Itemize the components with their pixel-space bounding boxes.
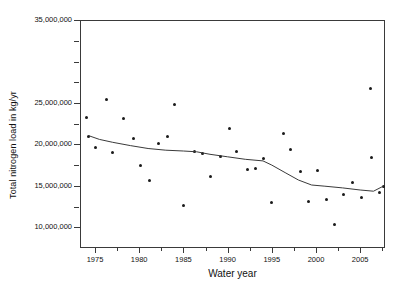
y-axis-tick	[74, 82, 79, 83]
x-axis-tick-label: 1995	[252, 255, 292, 264]
y-axis-tick	[74, 207, 79, 208]
y-axis-tick-label: 10,000,000	[12, 223, 72, 231]
x-axis-tick	[228, 248, 229, 253]
x-axis-tick	[360, 248, 361, 253]
x-axis-tick	[95, 248, 96, 253]
x-axis-tick-label: 2000	[296, 255, 336, 264]
x-axis-minor-tick	[338, 248, 339, 251]
y-axis-tick	[74, 144, 81, 145]
data-point	[193, 150, 196, 153]
x-axis-tick	[183, 248, 184, 253]
y-axis-tick-label: 20,000,000	[12, 140, 72, 148]
y-axis-tick-label: 35,000,000	[12, 16, 72, 24]
data-point	[201, 152, 204, 155]
data-point	[246, 168, 249, 171]
x-axis-tick-label: 1990	[208, 255, 248, 264]
x-axis-tick-label: 1985	[163, 255, 203, 264]
y-axis-tick	[74, 124, 79, 125]
data-point	[282, 132, 285, 135]
data-point	[342, 193, 345, 196]
plot-area	[80, 20, 385, 248]
data-point	[360, 196, 363, 199]
x-axis-minor-tick	[250, 248, 251, 251]
y-axis-tick	[74, 103, 81, 104]
y-axis-tick	[74, 227, 81, 228]
x-axis-tick-label: 1980	[119, 255, 159, 264]
data-point	[299, 170, 302, 173]
data-point	[228, 127, 231, 130]
x-axis-minor-tick	[294, 248, 295, 251]
data-point	[148, 179, 151, 182]
y-axis-tick	[74, 62, 79, 63]
data-point	[94, 146, 97, 149]
x-axis-tick-label: 1975	[75, 255, 115, 264]
data-point	[333, 223, 336, 226]
data-point	[87, 135, 90, 138]
data-point	[85, 116, 88, 119]
data-point	[307, 200, 310, 203]
y-axis-tick	[74, 41, 79, 42]
x-axis-minor-tick	[117, 248, 118, 251]
y-axis-tick-label: 25,000,000	[12, 99, 72, 107]
data-point	[122, 117, 125, 120]
data-point	[378, 191, 381, 194]
data-point	[351, 181, 354, 184]
x-axis-minor-tick	[206, 248, 207, 251]
y-axis-tick	[74, 186, 81, 187]
x-axis-minor-tick	[382, 248, 383, 251]
y-axis-tick-label: 15,000,000	[12, 182, 72, 190]
y-axis-tick	[74, 165, 79, 166]
x-axis-tick-label: 2005	[340, 255, 380, 264]
data-point	[316, 169, 319, 172]
data-point	[219, 155, 222, 158]
data-point	[254, 167, 257, 170]
data-point	[289, 148, 292, 151]
data-point	[132, 137, 135, 140]
x-axis-tick	[316, 248, 317, 253]
x-axis-minor-tick	[161, 248, 162, 251]
x-axis-title: Water year	[80, 268, 385, 279]
chart-container: Total nitrogen load in kg/yr Water year …	[0, 0, 403, 290]
data-point	[382, 185, 385, 188]
y-axis-tick	[74, 20, 81, 21]
x-axis-tick	[272, 248, 273, 253]
data-point	[370, 156, 373, 159]
x-axis-tick	[139, 248, 140, 253]
